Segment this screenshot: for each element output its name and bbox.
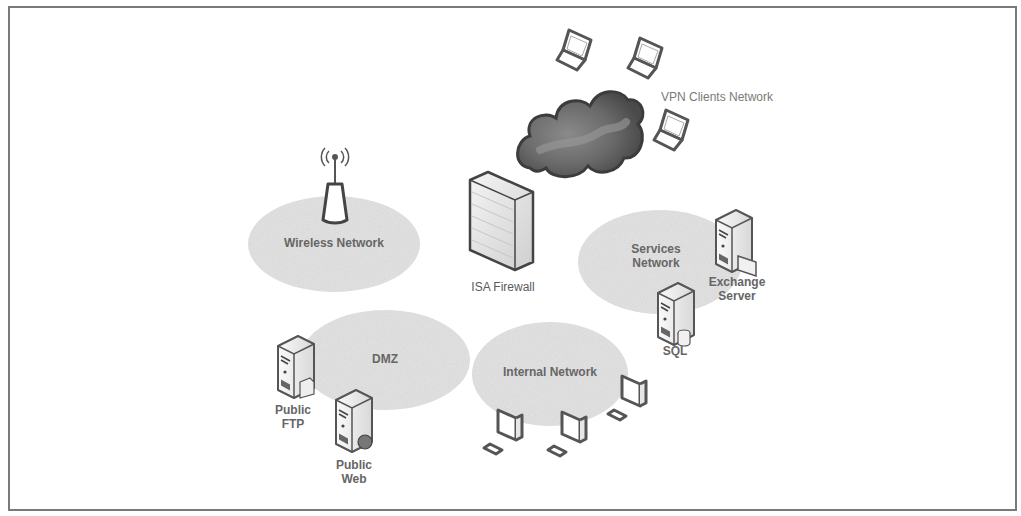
workstation-icon	[484, 410, 522, 454]
label-wireless-network: Wireless Network	[272, 236, 396, 250]
sql-server-icon	[658, 283, 694, 346]
wireless-access-point-icon	[321, 148, 348, 223]
label-internal-network: Internal Network	[490, 365, 610, 379]
label-sql: SQL	[655, 344, 695, 358]
network-diagram	[0, 0, 1021, 516]
exchange-server-icon	[716, 210, 756, 276]
label-vpn-clients-network: VPN Clients Network	[657, 90, 777, 104]
label-dmz: DMZ	[360, 352, 410, 366]
web-server-icon	[336, 390, 372, 452]
cloud-icon	[518, 92, 643, 177]
label-exchange-server: Exchange Server	[700, 275, 774, 303]
label-services-network: Services Network	[616, 242, 696, 270]
vpn-laptop-icon	[628, 38, 662, 78]
ftp-server-icon	[278, 336, 314, 398]
label-isa-firewall: ISA Firewall	[458, 280, 548, 294]
vpn-laptop-icon	[654, 110, 688, 150]
label-public-web: Public Web	[326, 458, 382, 486]
vpn-laptop-icon	[557, 30, 591, 70]
firewall-icon	[470, 172, 533, 270]
label-public-ftp: Public FTP	[268, 403, 318, 431]
